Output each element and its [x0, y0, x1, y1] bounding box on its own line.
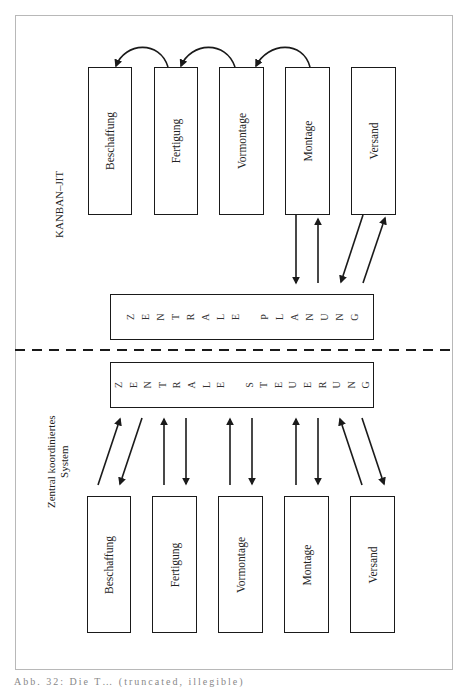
figure-caption: Abb. 32: Die T… (truncated, illegible) — [14, 676, 245, 687]
kanban-pull-arrows — [116, 47, 310, 67]
planning-link-arrows — [296, 215, 385, 283]
control-link-arrows — [98, 418, 384, 485]
